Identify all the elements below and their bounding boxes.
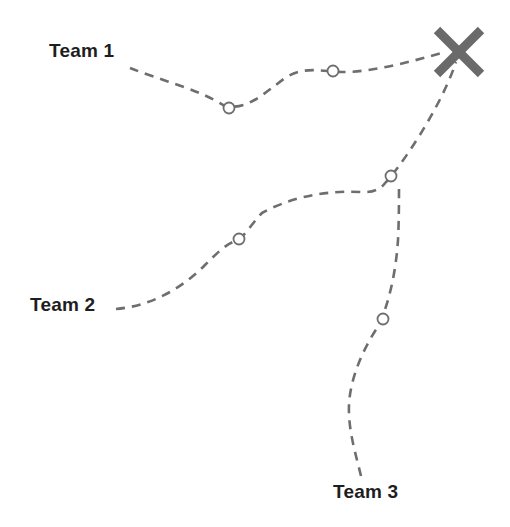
team-1-waypoint-1	[224, 103, 235, 114]
routes-layer	[116, 52, 456, 476]
team-3-waypoint-1	[378, 314, 389, 325]
x-mark-icon	[437, 30, 481, 74]
team-1-waypoint-2	[328, 66, 339, 77]
team-3-route	[349, 186, 399, 476]
team-2-label: Team 2	[30, 294, 95, 316]
team-1-route	[130, 52, 445, 107]
team-2-route	[116, 62, 456, 309]
team-2-waypoint-2	[386, 171, 397, 182]
team-3-label: Team 3	[333, 481, 398, 503]
team-1-label: Team 1	[49, 40, 114, 62]
team-2-waypoint-1	[234, 234, 245, 245]
route-canvas	[0, 0, 510, 527]
